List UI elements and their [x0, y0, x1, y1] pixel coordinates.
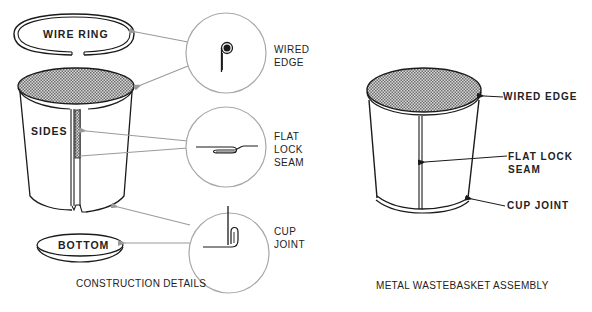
leader-lines-right — [425, 96, 507, 206]
cup-joint-callout: CUP JOINT — [507, 199, 569, 213]
wired-edge-callout: WIRED EDGE — [503, 90, 577, 104]
cup-joint-label-line1: CUP — [274, 225, 296, 239]
flat-lock-seam-detail — [186, 107, 266, 187]
wired-edge-label-line2: EDGE — [274, 56, 304, 70]
construction-details-caption: CONSTRUCTION DETAILS — [76, 278, 206, 289]
leader-lines-left — [80, 32, 190, 243]
flat-lock-seam-label-line1: FLAT — [274, 130, 299, 144]
wastebasket-diagram: WIRE RING SIDES BOTTOM WIRED EDGE FLAT L… — [0, 0, 592, 312]
flat-lock-seam-label-line2: LOCK — [274, 143, 303, 157]
bottom-label: BOTTOM — [58, 238, 109, 252]
cup-joint-label-line2: JOINT — [274, 238, 305, 252]
assembled-wastebasket — [367, 68, 481, 213]
flat-lock-seam-callout-line2: SEAM — [508, 163, 541, 177]
wired-edge-label-line1: WIRED — [274, 43, 309, 57]
assembly-caption: METAL WASTEBASKET ASSEMBLY — [376, 280, 549, 291]
sides-part — [18, 68, 134, 212]
wired-edge-detail — [186, 13, 266, 93]
flat-lock-seam-callout-line1: FLAT LOCK — [508, 150, 573, 164]
flat-lock-seam-label-line3: SEAM — [274, 156, 304, 170]
wire-ring-label: WIRE RING — [43, 27, 109, 41]
sides-label: SIDES — [31, 124, 68, 138]
